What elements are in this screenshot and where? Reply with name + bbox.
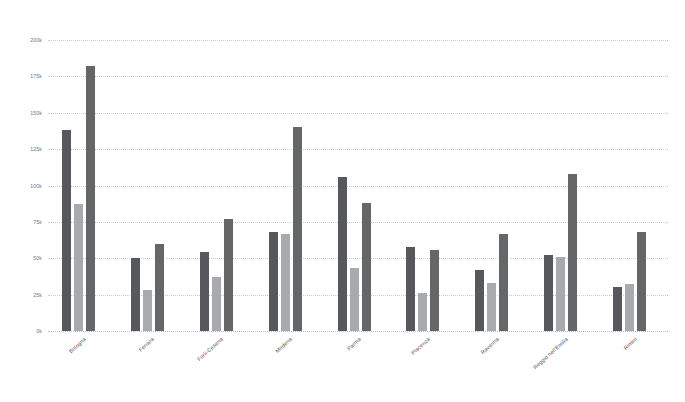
bar-group xyxy=(338,40,371,331)
bar-group xyxy=(62,40,95,331)
bar-group xyxy=(613,40,646,331)
y-tick-125k: 125k xyxy=(2,146,42,152)
bar[interactable] xyxy=(613,287,622,331)
bar[interactable] xyxy=(637,232,646,331)
bar-group xyxy=(406,40,439,331)
bar[interactable] xyxy=(430,250,439,331)
bar[interactable] xyxy=(568,174,577,331)
x-tick-bologna: Bologna xyxy=(67,336,86,354)
plot-area xyxy=(48,40,668,331)
bar[interactable] xyxy=(200,252,209,331)
bar-group xyxy=(475,40,508,331)
bar-group xyxy=(269,40,302,331)
bar[interactable] xyxy=(143,290,152,331)
bar-chart: 200k175k150k125k100k75k50k25k0k BolognaF… xyxy=(0,0,685,402)
y-tick-175k: 175k xyxy=(2,73,42,79)
bar-group xyxy=(200,40,233,331)
x-tick-rimini: Rimini xyxy=(622,336,638,351)
bar[interactable] xyxy=(293,127,302,331)
bar[interactable] xyxy=(62,130,71,331)
x-tick-reggio-nell-emilia: Reggio nell'Emilia xyxy=(532,336,569,370)
y-tick-100k: 100k xyxy=(2,183,42,189)
bar[interactable] xyxy=(406,247,415,331)
y-tick-150k: 150k xyxy=(2,110,42,116)
y-tick-200k: 200k xyxy=(2,37,42,43)
x-tick-modena: Modena xyxy=(274,336,293,354)
bar[interactable] xyxy=(269,232,278,331)
bar[interactable] xyxy=(499,234,508,331)
bar[interactable] xyxy=(350,268,359,331)
bar[interactable] xyxy=(475,270,484,331)
y-tick-50k: 50k xyxy=(2,255,42,261)
bar[interactable] xyxy=(131,258,140,331)
bar[interactable] xyxy=(487,283,496,331)
bar[interactable] xyxy=(86,66,95,331)
bar[interactable] xyxy=(224,219,233,331)
bar[interactable] xyxy=(544,255,553,331)
y-tick-25k: 25k xyxy=(2,292,42,298)
x-tick-ravenna: Ravenna xyxy=(479,336,500,355)
y-tick-75k: 75k xyxy=(2,219,42,225)
y-tick-0k: 0k xyxy=(2,328,42,334)
x-tick-forl-cesena: Forlì-Cesena xyxy=(196,336,224,362)
bar[interactable] xyxy=(74,204,83,331)
bar[interactable] xyxy=(155,244,164,331)
bar[interactable] xyxy=(362,203,371,331)
bar[interactable] xyxy=(418,293,427,331)
bar-group xyxy=(544,40,577,331)
bar[interactable] xyxy=(625,284,634,331)
x-tick-ferrara: Ferrara xyxy=(138,336,156,353)
gridline-0k xyxy=(48,331,668,332)
bar[interactable] xyxy=(281,234,290,331)
bar[interactable] xyxy=(212,277,221,331)
bar[interactable] xyxy=(556,257,565,331)
x-tick-parma: Parma xyxy=(346,336,362,351)
bar[interactable] xyxy=(338,177,347,331)
bar-group xyxy=(131,40,164,331)
x-tick-piacenza: Piacenza xyxy=(410,336,431,356)
